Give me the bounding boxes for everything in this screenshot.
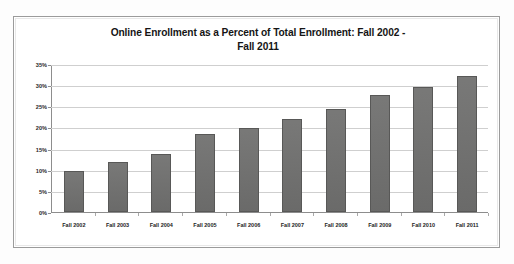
y-axis-tick-mark	[48, 192, 51, 193]
gridline	[51, 65, 488, 66]
y-axis-tick-label: 0%	[21, 210, 47, 216]
chart-plot-frame: Online Enrollment as a Percent of Total …	[13, 16, 500, 248]
x-axis-tick-mark	[357, 213, 358, 216]
y-axis-tick-label: 30%	[21, 83, 47, 89]
x-axis-tick-mark	[270, 213, 271, 216]
x-axis-tick-label: Fall 2009	[357, 222, 403, 228]
x-axis-tick-mark	[401, 213, 402, 216]
chart-title: Online Enrollment as a Percent of Total …	[42, 26, 474, 54]
x-axis-tick-mark	[182, 213, 183, 216]
y-axis-tick-label: 5%	[21, 189, 47, 195]
bar	[239, 128, 259, 212]
chart-figure: Online Enrollment as a Percent of Total …	[0, 0, 514, 264]
chart-title-line-1: Online Enrollment as a Percent of Total …	[42, 26, 474, 40]
x-axis-tick-label: Fall 2010	[400, 222, 446, 228]
x-axis-tick-label: Fall 2007	[269, 222, 315, 228]
x-axis-tick-mark	[488, 213, 489, 216]
y-axis-tick-mark	[48, 86, 51, 87]
x-axis-tick-label: Fall 2006	[226, 222, 272, 228]
bar	[326, 109, 346, 212]
x-axis-tick-mark	[444, 213, 445, 216]
bar	[64, 171, 84, 212]
x-axis-tick-label: Fall 2005	[182, 222, 228, 228]
y-axis-tick-label: 15%	[21, 147, 47, 153]
x-axis-tick-mark	[138, 213, 139, 216]
x-axis-tick-label: Fall 2008	[313, 222, 359, 228]
y-axis-tick-mark	[48, 65, 51, 66]
bar	[370, 95, 390, 211]
x-axis-tick-mark	[226, 213, 227, 216]
y-axis-tick-mark	[48, 150, 51, 151]
y-axis-tick-mark	[48, 213, 51, 214]
y-axis-tick-label: 25%	[21, 104, 47, 110]
x-axis-tick-label: Fall 2004	[138, 222, 184, 228]
x-axis-tick-mark	[313, 213, 314, 216]
bar	[457, 76, 477, 212]
x-axis-tick-mark	[95, 213, 96, 216]
y-axis-tick-labels: 0%5%10%15%20%25%30%35%	[21, 65, 47, 213]
bar	[282, 119, 302, 211]
bar	[195, 134, 215, 211]
y-axis-tick-mark	[48, 107, 51, 108]
bar	[151, 154, 171, 212]
chart-title-line-2: Fall 2011	[42, 40, 474, 54]
y-axis-tick-mark	[48, 128, 51, 129]
y-axis-tick-mark	[48, 171, 51, 172]
y-axis-tick-label: 20%	[21, 125, 47, 131]
y-axis-tick-label: 10%	[21, 168, 47, 174]
bar	[108, 162, 128, 211]
x-axis-tick-label: Fall 2002	[51, 222, 97, 228]
bar	[413, 87, 433, 211]
x-axis-tick-label: Fall 2003	[95, 222, 141, 228]
y-axis-tick-label: 35%	[21, 62, 47, 68]
x-axis-tick-label: Fall 2011	[444, 222, 490, 228]
plot-area: 0%5%10%15%20%25%30%35% Fall 2002Fall 200…	[51, 65, 488, 213]
